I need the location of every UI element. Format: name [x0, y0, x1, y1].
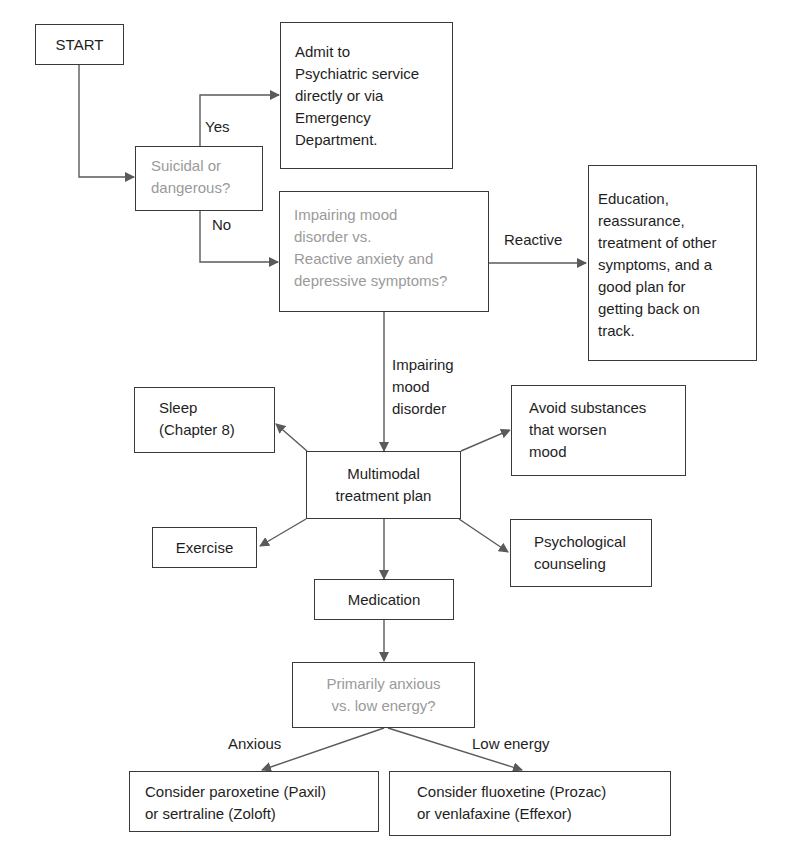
arrow-start-to-suicidal [79, 65, 134, 177]
edge-label-no: No [212, 214, 231, 236]
avoid-line: that worsen [529, 419, 685, 441]
arrow-to-psych [459, 519, 508, 552]
psych-line: Psychological [534, 531, 651, 553]
paroxetine-node: Consider paroxetine (Paxil) or sertralin… [129, 771, 379, 832]
admit-line: Psychiatric service [295, 63, 452, 85]
anxious-question-line: vs. low energy? [293, 695, 474, 717]
mood-question-line: Impairing mood [294, 204, 488, 226]
education-line: symptoms, and a [598, 254, 756, 276]
edge-label-anxious: Anxious [228, 733, 281, 755]
multimodal-line: treatment plan [307, 485, 460, 507]
paroxetine-line: Consider paroxetine (Paxil) [145, 781, 378, 803]
avoid-line: Avoid substances [529, 397, 685, 419]
fluoxetine-line: or venlafaxine (Effexor) [417, 803, 670, 825]
anxious-question-line: Primarily anxious [293, 673, 474, 695]
edge-label-impairing-line: disorder [392, 398, 454, 420]
edge-label-impairing-line: mood [392, 376, 454, 398]
suicidal-question-node: Suicidal or dangerous? [135, 146, 263, 211]
edge-label-yes: Yes [205, 116, 229, 138]
exercise-node: Exercise [152, 527, 257, 568]
edge-label-low-energy: Low energy [472, 733, 550, 755]
arrow-to-sleep [276, 424, 307, 451]
avoid-substances-node: Avoid substances that worsen mood [511, 385, 686, 476]
mood-question-line: depressive symptoms? [294, 270, 488, 292]
start-label: START [36, 34, 123, 56]
paroxetine-line: or sertraline (Zoloft) [145, 803, 378, 825]
start-node: START [35, 24, 124, 65]
exercise-label: Exercise [153, 537, 256, 559]
medication-node: Medication [314, 579, 454, 620]
mood-question-line: disorder vs. [294, 226, 488, 248]
admit-line: Admit to [295, 41, 452, 63]
psych-line: counseling [534, 553, 651, 575]
mood-question-node: Impairing mood disorder vs. Reactive anx… [279, 191, 489, 312]
education-line: getting back on [598, 298, 756, 320]
fluoxetine-node: Consider fluoxetine (Prozac) or venlafax… [389, 771, 671, 836]
suicidal-question-line: dangerous? [151, 177, 262, 199]
edge-label-reactive: Reactive [504, 229, 562, 251]
multimodal-line: Multimodal [307, 463, 460, 485]
admit-line: Emergency [295, 107, 452, 129]
education-line: treatment of other [598, 232, 756, 254]
edge-label-impairing: Impairing mood disorder [392, 354, 454, 420]
mood-question-line: Reactive anxiety and [294, 248, 488, 270]
anxious-question-node: Primarily anxious vs. low energy? [292, 662, 475, 728]
sleep-line: Sleep [159, 397, 274, 419]
fluoxetine-line: Consider fluoxetine (Prozac) [417, 781, 670, 803]
psych-counseling-node: Psychological counseling [510, 519, 652, 587]
medication-label: Medication [315, 589, 453, 611]
arrow-to-exercise [260, 519, 306, 546]
edge-label-impairing-line: Impairing [392, 354, 454, 376]
education-line: track. [598, 320, 756, 342]
education-line: good plan for [598, 276, 756, 298]
admit-node: Admit to Psychiatric service directly or… [280, 22, 453, 169]
avoid-line: mood [529, 441, 685, 463]
admit-line: directly or via [295, 85, 452, 107]
arrow-to-avoid [461, 430, 510, 451]
education-line: reassurance, [598, 210, 756, 232]
admit-line: Department. [295, 129, 452, 151]
suicidal-question-line: Suicidal or [151, 155, 262, 177]
multimodal-plan-node: Multimodal treatment plan [306, 451, 461, 519]
education-node: Education, reassurance, treatment of oth… [588, 165, 757, 361]
education-line: Education, [598, 188, 756, 210]
sleep-node: Sleep (Chapter 8) [134, 387, 275, 453]
sleep-line: (Chapter 8) [159, 419, 274, 441]
